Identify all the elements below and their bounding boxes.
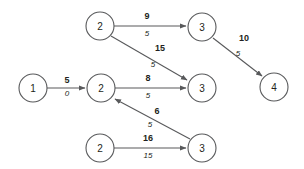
node-label: 2: [97, 143, 103, 154]
edge-flow-label: 5: [148, 120, 153, 129]
edge-capacity-label: 15: [155, 43, 165, 53]
edge-2-to-3-bottom: 16 15: [114, 133, 186, 160]
edge-flow-label: 5: [236, 49, 241, 58]
node-2-bottom[interactable]: 2: [86, 134, 114, 162]
edge-capacity-label: 5: [64, 75, 69, 85]
edge-flow-label: 0: [65, 89, 70, 98]
network-flow-diagram: 9 5 15 5 5 0 8 5: [0, 0, 304, 169]
node-2-top[interactable]: 2: [86, 12, 114, 40]
node-3-bottom[interactable]: 3: [188, 134, 216, 162]
edge-flow-label: 5: [145, 29, 150, 38]
edge-1-to-2: 5 0: [47, 75, 85, 98]
edge-capacity-label: 10: [239, 33, 249, 43]
node-3-top[interactable]: 3: [188, 13, 216, 41]
edge-flow-label: 5: [151, 60, 156, 69]
edge-flow-label: 5: [146, 91, 151, 100]
edge-capacity-label: 16: [143, 133, 153, 143]
edge-2-to-3-top: 9 5: [114, 11, 186, 38]
graph-canvas: 9 5 15 5 5 0 8 5: [0, 0, 304, 169]
edge-capacity-label: 6: [154, 106, 159, 116]
node-label: 2: [97, 21, 103, 32]
node-label: 2: [98, 83, 104, 94]
node-label: 1: [30, 83, 36, 94]
edge-2-to-3-middle: 8 5: [115, 73, 186, 100]
edge-flow-label: 15: [144, 151, 153, 160]
node-3-middle[interactable]: 3: [188, 74, 216, 102]
edge-capacity-label: 8: [145, 73, 150, 83]
node-label: 3: [199, 22, 205, 33]
node-1[interactable]: 1: [19, 74, 47, 102]
node-4[interactable]: 4: [260, 73, 288, 101]
node-2-middle[interactable]: 2: [87, 74, 115, 102]
node-label: 3: [199, 83, 205, 94]
edge-capacity-label: 9: [144, 11, 149, 21]
node-label: 4: [271, 82, 277, 93]
node-label: 3: [199, 143, 205, 154]
edges-layer: 9 5 15 5 5 0 8 5: [47, 11, 262, 160]
edge-3-to-4: 10 5: [213, 33, 262, 76]
